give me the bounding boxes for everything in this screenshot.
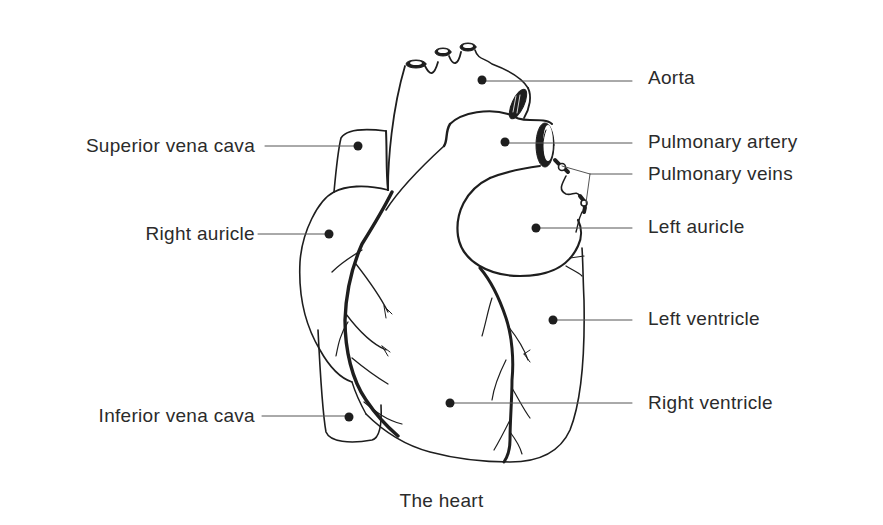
ventricles-outline xyxy=(366,146,584,462)
heart-diagram xyxy=(0,0,883,525)
leader-pulmonary-veins-c xyxy=(586,174,590,203)
label-right-ventricle: Right ventricle xyxy=(648,393,773,412)
right-coronary-vessels xyxy=(332,192,402,436)
label-right-auricle: Right auricle xyxy=(145,224,255,243)
label-left-auricle: Left auricle xyxy=(648,217,745,236)
dot-pulmonary-artery xyxy=(501,138,510,147)
label-pulmonary-artery: Pulmonary artery xyxy=(648,132,797,151)
dot-left-ventricle xyxy=(549,316,558,325)
figure-caption: The heart xyxy=(0,490,883,512)
inferior-vena-cava-shape xyxy=(318,330,381,442)
dot-right-auricle xyxy=(325,230,334,239)
label-left-ventricle: Left ventricle xyxy=(648,309,760,328)
label-pulmonary-veins: Pulmonary veins xyxy=(648,164,793,183)
dot-aorta xyxy=(478,76,487,85)
label-aorta: Aorta xyxy=(648,68,695,87)
pulmonary-veins-shape xyxy=(555,160,587,232)
dot-left-auricle xyxy=(532,224,541,233)
label-inferior-vena-cava: Inferior vena cava xyxy=(99,406,255,425)
dot-inferior-vena-cava xyxy=(345,413,354,422)
dot-superior-vena-cava xyxy=(354,142,363,151)
pulmonary-artery-shape xyxy=(444,111,554,178)
left-coronary-vessels xyxy=(480,268,530,462)
superior-vena-cava-shape xyxy=(334,130,388,192)
dot-right-ventricle xyxy=(446,399,455,408)
label-superior-vena-cava: Superior vena cava xyxy=(86,136,255,155)
